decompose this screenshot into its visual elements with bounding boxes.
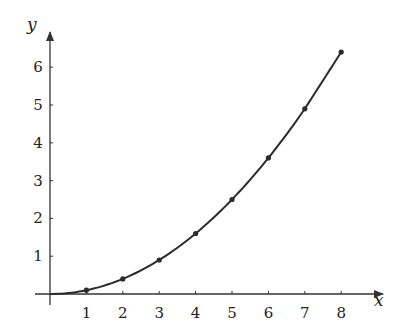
y-tick-label: 4 [33,134,43,152]
axis-ticks: 12345678123456 [33,58,346,322]
data-points [84,49,344,292]
y-tick-label: 6 [33,58,43,76]
x-tick-label: 1 [82,304,92,322]
x-tick-label: 2 [118,304,128,322]
y-axis-label: y [26,14,37,34]
x-tick-label: 8 [336,304,346,322]
data-point [120,276,125,281]
data-point [229,197,234,202]
y-tick-label: 2 [33,209,43,227]
series-line [50,52,341,294]
data-point [302,106,307,111]
x-axis-label: x [374,290,384,310]
data-point [193,231,198,236]
x-tick-label: 4 [191,304,201,322]
chart: 12345678123456 x y [0,0,406,333]
data-curve [50,52,341,294]
x-tick-label: 3 [154,304,164,322]
x-tick-label: 6 [264,304,274,322]
axes [35,32,383,305]
data-point [339,49,344,54]
data-point [84,288,89,293]
data-point [266,155,271,160]
x-tick-label: 5 [227,304,237,322]
x-tick-label: 7 [300,304,310,322]
data-point [157,257,162,262]
y-tick-label: 1 [33,247,43,265]
y-tick-label: 3 [33,172,43,190]
y-tick-label: 5 [33,96,43,114]
